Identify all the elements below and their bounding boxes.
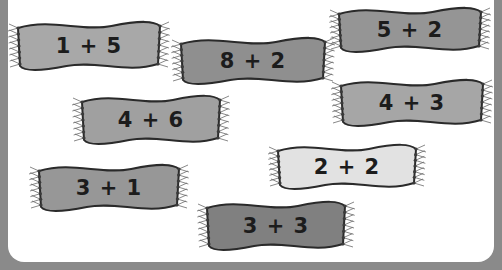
banner-4[interactable]: 4 + 6 [78, 96, 224, 144]
banner-label: 5 + 2 [335, 8, 485, 52]
banner-label: 1 + 5 [14, 22, 164, 70]
banner-label: 2 + 2 [274, 145, 420, 189]
banner-label: 3 + 1 [35, 165, 183, 211]
banner-3[interactable]: 5 + 2 [335, 8, 485, 52]
banner-1[interactable]: 1 + 5 [14, 22, 164, 70]
banner-label: 3 + 3 [203, 202, 349, 250]
banner-label: 4 + 6 [78, 96, 224, 144]
banner-label: 8 + 2 [177, 38, 329, 84]
banner-6[interactable]: 2 + 2 [274, 145, 420, 189]
banner-5[interactable]: 4 + 3 [337, 80, 487, 126]
banner-7[interactable]: 3 + 1 [35, 165, 183, 211]
banner-8[interactable]: 3 + 3 [203, 202, 349, 250]
banner-2[interactable]: 8 + 2 [177, 38, 329, 84]
banner-label: 4 + 3 [337, 80, 487, 126]
